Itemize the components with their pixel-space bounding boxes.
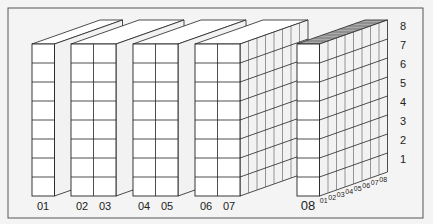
- column-label-07: 07: [223, 200, 235, 212]
- column-label-02: 02: [76, 200, 88, 212]
- row-label-7: 7: [400, 39, 406, 51]
- diagram-stage: 0102030405060708876543210102030405060708: [0, 0, 433, 224]
- depth-label-08: 08: [379, 176, 387, 183]
- row-label-3: 3: [400, 115, 406, 127]
- row-label-6: 6: [400, 58, 406, 70]
- block-diagram: 0102030405060708876543210102030405060708: [0, 0, 433, 224]
- column-label-01: 01: [37, 200, 49, 212]
- column-label-05: 05: [161, 200, 173, 212]
- column-label-08: 08: [301, 198, 315, 213]
- row-label-4: 4: [400, 96, 406, 108]
- row-label-5: 5: [400, 77, 406, 89]
- column-label-04: 04: [138, 200, 150, 212]
- row-label-2: 2: [400, 134, 406, 146]
- row-label-8: 8: [400, 20, 406, 32]
- depth-label-01: 01: [320, 197, 328, 204]
- depth-label-06: 06: [362, 182, 370, 189]
- depth-label-03: 03: [337, 191, 345, 198]
- depth-label-05: 05: [354, 185, 362, 192]
- column-label-03: 03: [99, 200, 111, 212]
- row-label-1: 1: [400, 153, 406, 165]
- block-08: [297, 20, 388, 196]
- column-label-06: 06: [200, 200, 212, 212]
- depth-label-07: 07: [371, 179, 379, 186]
- block-06-07: [195, 20, 308, 196]
- depth-label-04: 04: [345, 188, 353, 195]
- depth-label-02: 02: [328, 194, 336, 201]
